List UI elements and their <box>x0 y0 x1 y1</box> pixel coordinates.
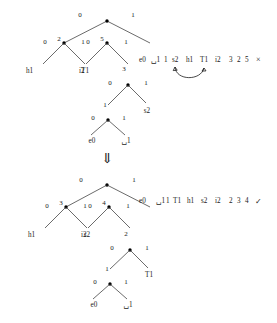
leaf-label-bottom-h1: h1 <box>28 231 36 239</box>
edge-bottom-n4-left <box>88 207 109 228</box>
sequence-before-token-2: 1 <box>164 56 168 64</box>
edge-n1-left <box>91 120 108 135</box>
sequence-before-mark: × <box>256 55 261 64</box>
edge-label-bottom-root-right: 1 <box>132 176 136 184</box>
sequence-after-token-6: i2 <box>215 197 221 205</box>
edge-bottom-n1-right <box>110 284 127 299</box>
node-label-1: 1 <box>103 101 107 109</box>
sequence-before-token-4: h1 <box>186 56 194 64</box>
sequence-before-token-0: e0 <box>139 56 146 64</box>
sequence-after-token-4: h1 <box>187 197 195 205</box>
edge-label-root-left: 0 <box>78 11 82 19</box>
edge-label-bottom-n2-right: 1 <box>145 244 149 252</box>
edge-label-n3-right: 1 <box>144 79 148 87</box>
edge-bottom-n3-left <box>45 207 66 228</box>
sequence-after-token-9: 4 <box>245 197 249 205</box>
sequence-after-token-2: 1 <box>166 197 170 205</box>
node-root-dot <box>105 19 108 22</box>
node-label-bottom-3: 3 <box>59 199 63 207</box>
edge-bottom-n2-right <box>130 250 148 268</box>
edge-label-bottom-n1-right: 1 <box>124 278 128 286</box>
node-label-bottom-2: 2 <box>124 230 128 238</box>
edge-label-bottom-n4-right: 1 <box>126 202 130 210</box>
node-label-bottom-1: 1 <box>105 265 109 273</box>
edge-bottom-n3-right <box>66 207 87 228</box>
edge-n3-right <box>128 85 146 103</box>
edge-label-bottom-n3-left: 0 <box>45 202 49 210</box>
sequence-before-token-9: 5 <box>245 56 249 64</box>
node-label-3: 3 <box>122 65 126 73</box>
edge-n2-left <box>43 43 64 64</box>
sequence-before-token-3: s2 <box>172 56 179 64</box>
leaf-label-bottom-T1: T1 <box>145 271 153 279</box>
node-label-2: 2 <box>57 35 61 43</box>
sequence-before-token-1: ␣1 <box>151 56 160 64</box>
sequence-before-token-6: i2 <box>215 56 221 64</box>
edge-label-bottom-n2-left: 0 <box>110 244 114 252</box>
swap-arrow-head-right <box>202 68 206 71</box>
leaf-label-h1: h1 <box>26 67 34 75</box>
edge-label-bottom-root-left: 0 <box>79 176 83 184</box>
edge-bottom-n2-left <box>110 250 130 269</box>
sequence-after-token-1: ␣1 <box>156 197 165 205</box>
sequence-after-mark: ✓ <box>255 197 262 206</box>
edge-n2-right <box>64 43 85 64</box>
sequence-after-token-8: 3 <box>237 197 241 205</box>
sequence-before-token-5: T1 <box>200 56 208 64</box>
node-label-5: 5 <box>100 35 104 43</box>
edge-label-n2-right: 1 <box>81 38 85 46</box>
leaf-label-e0: e0 <box>89 137 96 145</box>
sequence-after-token-3: T1 <box>173 197 181 205</box>
leaf-label-s2: s2 <box>144 107 151 115</box>
edge-label-n5-left: 0 <box>86 38 90 46</box>
sequence-before-token-8: 2 <box>237 56 241 64</box>
edge-label-n5-right: 1 <box>124 38 128 46</box>
edge-n5-right <box>107 43 128 64</box>
edge-n3-left <box>108 85 128 105</box>
sequence-bottom-group: e0 ␣1 1 T1 h1 s2 i2 2 3 4 ✓ <box>139 197 262 206</box>
swap-arc <box>175 67 204 78</box>
edge-label-bottom-n1-left: 0 <box>93 278 97 286</box>
edge-label-n1-right: 1 <box>122 114 126 122</box>
edge-n5-left <box>86 43 107 64</box>
huffman-figure: 0 1 2 0 1 h1 T1 5 0 1 i2 3 0 1 <box>0 0 277 323</box>
edge-bottom-n4-right <box>109 207 130 228</box>
edge-label-bottom-n3-right: 1 <box>83 202 87 210</box>
edge-bottom-n1-left <box>93 284 110 299</box>
edge-n1-right <box>108 120 125 135</box>
sequence-after-token-5: s2 <box>201 197 208 205</box>
tree-bottom-group: 0 1 3 0 1 h1 s2 4 0 1 i2 2 0 1 <box>28 176 153 309</box>
downward-arrow-icon: ⇓ <box>101 151 113 166</box>
sequence-after-token-0: e0 <box>139 197 146 205</box>
leaf-label-bottom-space1: ␣1 <box>123 301 132 309</box>
transition-arrow-group: ⇓ <box>101 151 113 166</box>
leaf-label-space1: ␣1 <box>121 137 130 145</box>
node-label-bottom-4: 4 <box>102 199 106 207</box>
leaf-label-bottom-e0: e0 <box>91 301 98 309</box>
tree-top-group: 0 1 2 0 1 h1 T1 5 0 1 i2 3 0 1 <box>26 11 151 145</box>
leaf-label-i2: i2 <box>79 67 85 75</box>
edge-label-n1-left: 0 <box>91 114 95 122</box>
sequence-top-group: e0 ␣1 1 s2 h1 T1 i2 3 2 5 × <box>139 55 261 78</box>
edge-root-right <box>107 21 150 43</box>
edge-label-n3-left: 0 <box>108 79 112 87</box>
sequence-after-token-7: 2 <box>229 197 233 205</box>
edge-label-n2-left: 0 <box>43 38 47 46</box>
sequence-before-token-7: 3 <box>229 56 233 64</box>
figure-canvas: 0 1 2 0 1 h1 T1 5 0 1 i2 3 0 1 <box>0 0 277 323</box>
edge-label-bottom-n4-left: 0 <box>88 202 92 210</box>
leaf-label-bottom-i2: i2 <box>81 231 87 239</box>
edge-label-root-right: 1 <box>131 11 135 19</box>
